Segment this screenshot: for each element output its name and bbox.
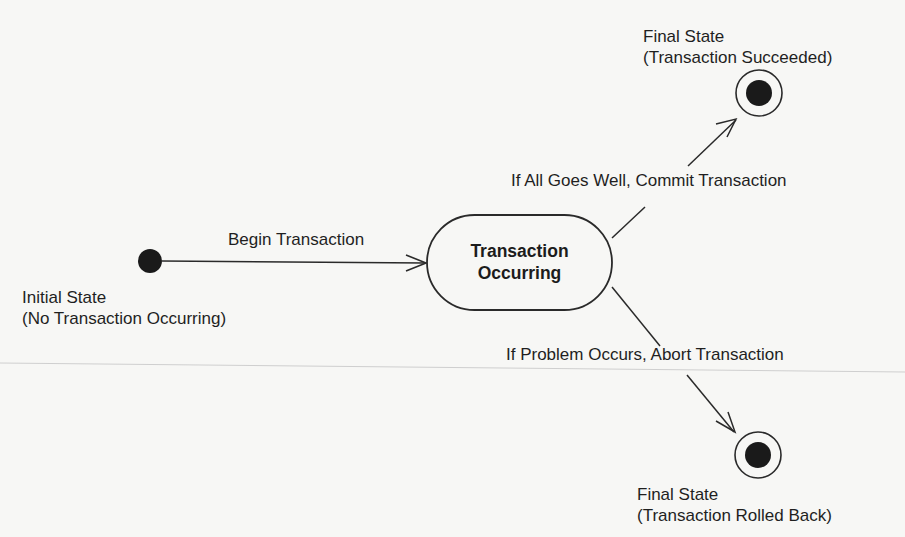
initial-state-title: Initial State: [22, 287, 106, 308]
final-succeeded-title: Final State: [643, 26, 724, 47]
final-state-succeeded-node[interactable]: [736, 70, 782, 116]
begin-transition-arrow[interactable]: [162, 255, 426, 271]
abort-transition-label: If Problem Occurs, Abort Transaction: [506, 344, 784, 365]
final-succeeded-subtitle: (Transaction Succeeded): [643, 47, 832, 68]
final-state-rolled-back-node[interactable]: [735, 432, 781, 478]
begin-transition-label: Begin Transaction: [228, 229, 364, 250]
state-label-line1: Transaction: [427, 240, 612, 262]
final-rolled-back-title: Final State: [637, 484, 718, 505]
state-label-line2: Occurring: [427, 262, 612, 284]
initial-state-node[interactable]: [138, 249, 162, 273]
final-rolled-back-subtitle: (Transaction Rolled Back): [637, 505, 832, 526]
state-diagram: Initial State (No Transaction Occurring)…: [0, 0, 905, 537]
commit-transition-label: If All Goes Well, Commit Transaction: [511, 170, 787, 191]
initial-state-subtitle: (No Transaction Occurring): [22, 308, 226, 329]
